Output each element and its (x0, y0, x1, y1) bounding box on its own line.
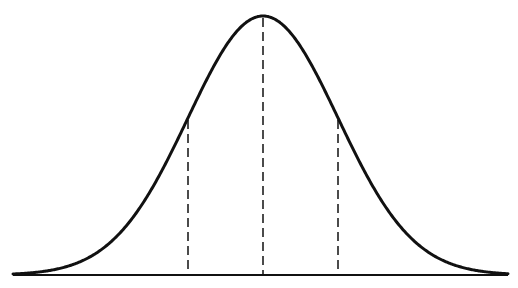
bell-curve-diagram (0, 0, 518, 288)
background (0, 0, 518, 288)
